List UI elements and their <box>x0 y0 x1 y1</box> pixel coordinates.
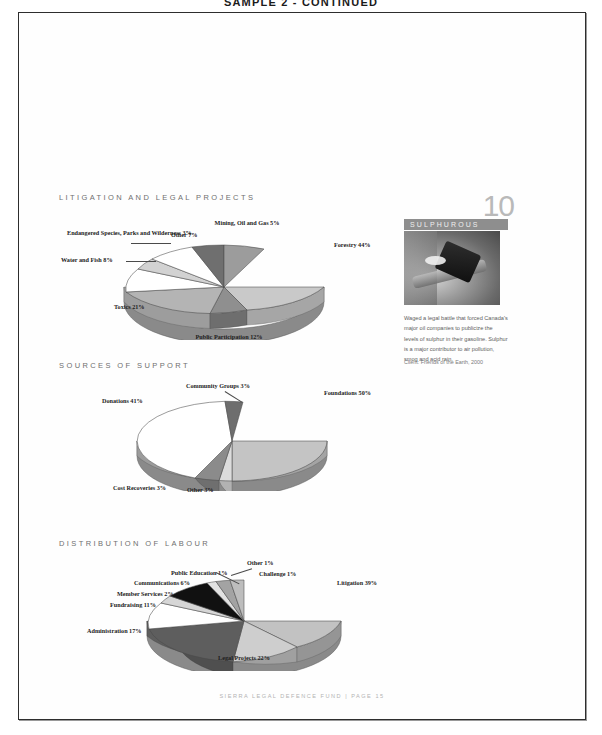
page-sheet: LITIGATION AND LEGAL PROJECTS <box>18 12 586 720</box>
gas-pump-nozzle-photo <box>404 231 500 305</box>
pie-2-label-cost-recoveries: Cost Recoveries 3% <box>113 484 166 492</box>
section-title-sources: SOURCES OF SUPPORT <box>59 361 190 370</box>
pie-1-label-endangered-species: Endangered Species, Parks and Wilderness… <box>67 229 187 237</box>
pie-2-label-community-groups: Community Groups 3% <box>186 382 250 390</box>
feature-number: 10 <box>483 191 514 221</box>
pie-2-label-foundations: Foundations 50% <box>324 389 371 397</box>
page-footer: SIERRA LEGAL DEFENCE FUND | PAGE 15 <box>19 693 585 699</box>
pie-1-leader-b <box>126 261 156 262</box>
pie-2-label-donations: Donations 41% <box>102 397 143 405</box>
pie-3-label-challenge: Challenge 1% <box>259 570 296 578</box>
pie-chart-2 <box>127 391 337 491</box>
pie-3-label-fundraising: Fundraising 11% <box>110 601 156 609</box>
section-title-litigation: LITIGATION AND LEGAL PROJECTS <box>59 193 255 202</box>
pie-1-slice-mining-oil-gas <box>224 245 264 287</box>
feature-client-credit: Client: Friends of the Earth, 2000 <box>404 359 514 365</box>
feature-banner-label: SULPHUROUS <box>410 219 480 230</box>
pie-2-svg <box>127 391 337 491</box>
pie-3-label-legal-projects: Legal Projects 22% <box>194 654 294 662</box>
pie-1-label-toxics: Toxics 21% <box>114 303 145 311</box>
pie-chart-1 <box>114 235 334 340</box>
pie-1-label-other: Other 7% <box>171 231 198 239</box>
pie-3-label-other: Other 1% <box>247 559 274 567</box>
pie-1-svg <box>114 235 334 340</box>
photo-shade-left <box>404 231 437 305</box>
pie-1-label-mining-oil-gas: Mining, Oil and Gas 5% <box>212 219 282 227</box>
pie-1-label-water-and-fish: Water and Fish 8% <box>61 256 113 264</box>
feature-caption: Waged a legal battle that forced Canada'… <box>404 313 508 365</box>
pie-3-label-member-services: Member Services 2% <box>117 590 174 598</box>
pie-3-label-communications: Communications 6% <box>134 579 190 587</box>
pie-1-label-public-participation: Public Participation 12% <box>169 333 289 341</box>
pie-2-label-other: Other 3% <box>187 486 214 494</box>
pie-3-label-administration: Administration 17% <box>87 627 142 635</box>
pie-1-leader-a <box>131 243 171 244</box>
pie-1-label-forestry: Forestry 44% <box>334 241 370 249</box>
section-title-distribution: DISTRIBUTION OF LABOUR <box>59 539 210 548</box>
pie-3-label-litigation: Litigation 39% <box>337 579 377 587</box>
page-header: SAMPLE 2 - CONTINUED <box>0 0 602 8</box>
